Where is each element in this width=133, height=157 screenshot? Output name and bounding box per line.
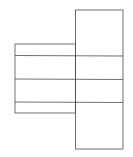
horizontal-fold-lines [15,56,123,103]
left-panel [15,44,76,113]
fold-line-3 [15,102,123,103]
box-net-diagram [0,0,133,157]
fold-line-1 [15,56,123,57]
fold-line-2 [15,79,123,80]
